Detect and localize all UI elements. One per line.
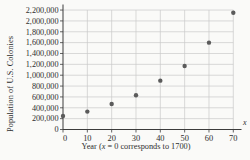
y-tick-label: 2,200,000 (26, 6, 59, 15)
data-point (61, 114, 65, 118)
y-tick-label: 1,800,000 (26, 28, 59, 37)
scatter-chart-figure: 0200,000400,000600,000800,0001,000,0001,… (0, 0, 250, 160)
data-point (158, 78, 162, 82)
y-tick-label: 1,600,000 (26, 38, 59, 47)
y-tick-label: 400,000 (32, 104, 59, 113)
plot-svg: 0200,000400,000600,000800,0001,000,0001,… (0, 0, 250, 160)
y-tick-label: 1,000,000 (26, 71, 59, 80)
y-tick-label: 1,200,000 (26, 60, 59, 69)
x-axis-caption: Year (x = 0 corresponds to 1700) (30, 142, 242, 151)
y-tick-label: 200,000 (32, 114, 59, 123)
x-axis-symbol: x (243, 118, 247, 127)
y-tick-label: 600,000 (32, 93, 59, 102)
data-point (85, 109, 89, 113)
y-tick-label: 1,400,000 (26, 49, 59, 58)
x-axis-caption-prefix: Year ( (82, 142, 102, 151)
data-point (134, 93, 138, 97)
data-point (182, 64, 186, 68)
data-point (231, 11, 235, 15)
data-point (207, 40, 211, 44)
y-tick-label: 800,000 (32, 82, 59, 91)
y-tick-label: 2,000,000 (26, 17, 59, 26)
y-tick-label: 0 (54, 125, 58, 134)
y-axis-title: Population of U.S. Colonies (6, 36, 15, 132)
data-point (109, 102, 113, 106)
x-axis-caption-suffix: = 0 corresponds to 1700) (105, 142, 190, 151)
